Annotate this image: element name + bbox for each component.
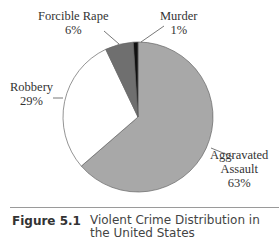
label-rape-name: Forcible Rape bbox=[38, 9, 108, 23]
figure-caption: Violent Crime Distribution in the United… bbox=[90, 214, 275, 239]
label-assault-pct: 63% bbox=[210, 176, 268, 190]
label-rape-pct: 6% bbox=[38, 23, 108, 37]
label-aggravated-assault: Aggravated Assault 63% bbox=[210, 148, 268, 190]
label-robbery: Robbery 29% bbox=[10, 80, 53, 108]
label-murder: Murder 1% bbox=[160, 9, 198, 37]
pie-slices bbox=[63, 42, 213, 192]
figure-number: Figure 5.1 bbox=[12, 214, 81, 228]
label-murder-name: Murder bbox=[160, 9, 198, 23]
label-assault-name-2: Assault bbox=[210, 162, 268, 176]
label-robbery-name: Robbery bbox=[10, 80, 53, 94]
label-assault-name-1: Aggravated bbox=[210, 148, 268, 162]
label-forcible-rape: Forcible Rape 6% bbox=[38, 9, 108, 37]
label-robbery-pct: 29% bbox=[10, 94, 53, 108]
label-murder-pct: 1% bbox=[160, 23, 198, 37]
caption-divider bbox=[10, 207, 279, 208]
